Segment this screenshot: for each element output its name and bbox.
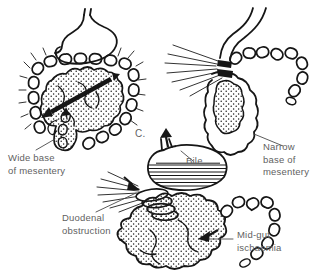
wide-base-leader bbox=[36, 139, 55, 150]
malrotation-diagram bbox=[165, 8, 303, 155]
narrow-mesentery-base-band bbox=[217, 60, 233, 78]
colon-malrotated bbox=[235, 51, 303, 106]
narrow-base-radiating-lines bbox=[165, 45, 222, 96]
normal-rotation-diagram bbox=[19, 9, 146, 150]
terminal-ileum-loop bbox=[62, 116, 66, 144]
panel-c-label: C. bbox=[135, 128, 145, 141]
duodenal-obstruction-label: Duodenal obstruction bbox=[62, 212, 111, 237]
small-bowel-malrotated bbox=[204, 72, 258, 155]
midgut-ischaemia-label: Mid-gut ischaemia bbox=[237, 229, 282, 254]
wide-base-label: Wide base of mesentery bbox=[8, 152, 65, 177]
narrow-base-label: Narrow base of mesentery bbox=[263, 141, 309, 179]
obstruction-arrow bbox=[124, 177, 140, 190]
figure: Wide base of mesentery Narrow base of me… bbox=[0, 0, 322, 280]
obstruction-radiating-lines bbox=[97, 172, 145, 212]
midgut-ischaemic-mass bbox=[117, 193, 226, 269]
bile-label: Bile bbox=[186, 155, 203, 168]
